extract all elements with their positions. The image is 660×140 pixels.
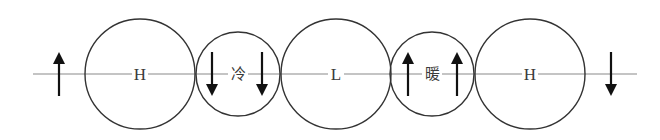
circle-label: 暖 <box>425 66 440 82</box>
pressure-system-diagram: H冷L暖H <box>0 0 660 140</box>
circle-label: H <box>134 65 146 84</box>
circle-label: H <box>524 65 536 84</box>
circle-label: L <box>331 65 341 84</box>
circle-label: 冷 <box>231 66 246 82</box>
